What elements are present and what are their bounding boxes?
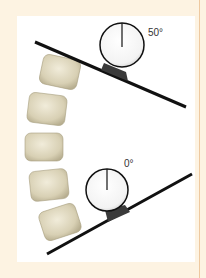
vertebra-2 [26,92,67,126]
vertebra-5 [37,202,82,242]
vertebra-3 [25,133,63,161]
bottom-angle-label: 0° [124,158,134,169]
top-angle-label: 50° [148,27,163,38]
vertebra-4 [29,168,70,202]
vertebrae [25,53,83,242]
spine-inclinometer-diagram [0,0,206,278]
